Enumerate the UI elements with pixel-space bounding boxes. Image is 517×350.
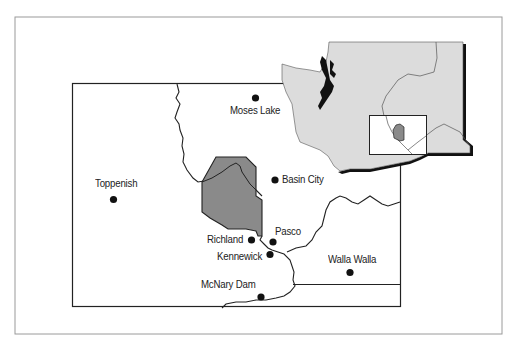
city-dot-moses-lake: [252, 94, 259, 101]
city-label-mcnary-dam: McNary Dam: [201, 278, 256, 290]
city-label-moses-lake: Moses Lake: [230, 104, 280, 116]
city-dot-kennewick: [266, 251, 273, 258]
city-dot-richland: [248, 236, 255, 243]
city-dot-basin-city: [271, 176, 278, 183]
city-label-richland: Richland: [207, 233, 243, 245]
map-figure: [0, 0, 517, 350]
city-dot-pasco: [269, 238, 276, 245]
city-dot-toppenish: [110, 196, 117, 203]
city-label-walla-walla: Walla Walla: [328, 253, 376, 265]
city-label-basin-city: Basin City: [282, 173, 324, 185]
city-label-pasco: Pasco: [275, 225, 301, 237]
city-dot-walla-walla: [346, 269, 353, 276]
city-label-kennewick: Kennewick: [217, 250, 262, 262]
city-dot-mcnary-dam: [257, 293, 264, 300]
city-label-toppenish: Toppenish: [95, 177, 137, 189]
